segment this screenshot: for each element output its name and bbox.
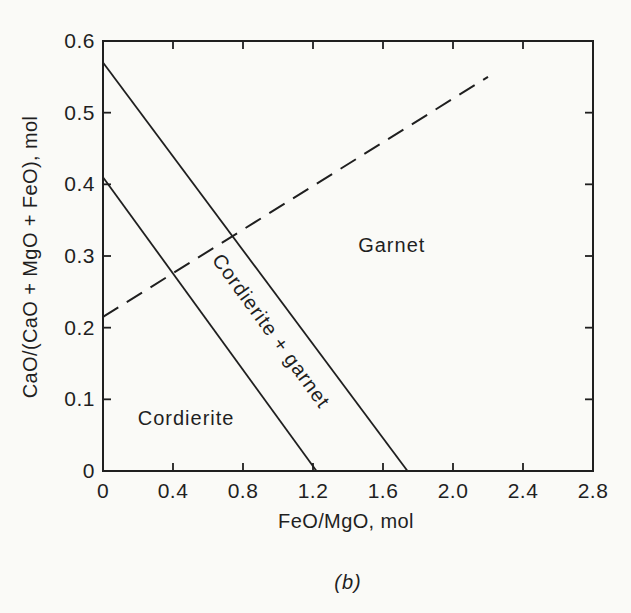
- region-label-cordierite: Cordierite: [138, 407, 235, 429]
- region-label-cordierite-garnet: Cordierite + garnet: [208, 249, 335, 412]
- x-tick-label: 2.0: [438, 479, 469, 502]
- x-tick-label: 0: [97, 479, 109, 502]
- y-tick-label: 0.3: [64, 244, 95, 267]
- y-tick-label: 0: [83, 459, 95, 482]
- y-tick-label: 0.4: [64, 172, 95, 195]
- x-tick-label: 1.6: [368, 479, 399, 502]
- x-tick-label: 2.4: [508, 479, 539, 502]
- phase-diagram-plot: 0.60.50.40.30.20.102.82.42.01.61.20.80.4…: [0, 0, 631, 613]
- x-axis-label: FeO/MgO, mol: [278, 510, 414, 532]
- y-axis-label: CaO/(CaO + MgO + FeO), mol: [19, 116, 41, 399]
- y-tick-label: 0.1: [64, 387, 95, 410]
- y-tick-label: 0.6: [64, 29, 95, 52]
- boundary-line-dashed-boundary: [103, 77, 488, 317]
- y-tick-label: 0.5: [64, 101, 95, 124]
- region-label-garnet: Garnet: [358, 234, 425, 256]
- x-tick-label: 0.4: [158, 479, 189, 502]
- x-tick-label: 0.8: [228, 479, 259, 502]
- x-tick-label: 2.8: [578, 479, 609, 502]
- x-tick-label: 1.2: [298, 479, 329, 502]
- phase-diagram-figure: 0.60.50.40.30.20.102.82.42.01.61.20.80.4…: [0, 0, 631, 613]
- y-tick-label: 0.2: [64, 316, 95, 339]
- figure-caption: (b): [334, 571, 361, 593]
